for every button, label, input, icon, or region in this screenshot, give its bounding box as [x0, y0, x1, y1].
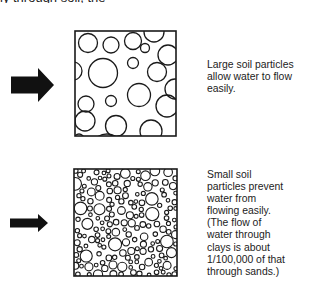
flow-arrow-icon-small [10, 214, 48, 232]
large-particles-caption: Large soil particles allow water to flow… [207, 59, 315, 95]
flow-arrow-icon-large [11, 68, 54, 102]
clipped-header-text: ly through soil, the [0, 0, 317, 3]
small-particles-caption: Small soil particles prevent water from … [207, 169, 315, 278]
large-particle-box [74, 30, 177, 137]
small-particle-box [73, 168, 178, 277]
